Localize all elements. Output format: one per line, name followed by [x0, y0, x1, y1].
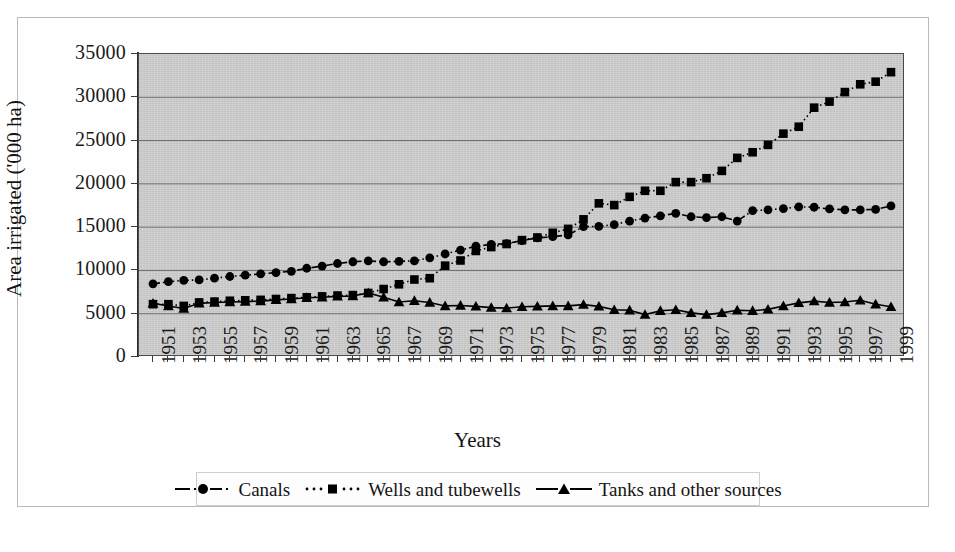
data-point-square	[841, 88, 850, 97]
data-point-square	[595, 199, 604, 208]
x-tick-mark	[767, 356, 768, 362]
x-tick-mark	[536, 356, 537, 362]
y-tick-mark	[131, 356, 138, 357]
x-tick-mark	[598, 356, 599, 362]
legend-label-wells-and-tubewells: Wells and tubewells	[368, 480, 521, 499]
data-point-circle	[241, 271, 250, 280]
data-point-circle	[210, 274, 219, 283]
x-tick-mark	[337, 356, 338, 362]
legend-swatch-circle-icon	[174, 481, 232, 497]
x-tick-mark	[844, 356, 845, 362]
y-tick-label: 0	[116, 345, 126, 365]
data-point-square	[625, 193, 634, 202]
scan-page-edge	[0, 533, 955, 552]
y-tick-label: 25000	[75, 129, 126, 149]
x-tick-mark	[429, 356, 430, 362]
x-tick-mark	[352, 356, 353, 362]
legend-item-canals[interactable]: Canals	[167, 480, 297, 499]
data-point-square	[748, 148, 757, 157]
x-tick-mark	[444, 356, 445, 362]
x-tick-mark	[629, 356, 630, 362]
data-point-square	[887, 68, 896, 77]
x-tick-label: 1963	[344, 326, 363, 364]
legend-label-canals: Canals	[238, 480, 290, 499]
data-point-square	[518, 236, 527, 245]
x-tick-mark	[859, 356, 860, 362]
x-tick-label: 1953	[190, 326, 209, 364]
x-tick-label: 1995	[836, 326, 855, 364]
plot-area	[138, 53, 904, 356]
series-canals	[149, 202, 896, 289]
data-point-circle	[425, 253, 434, 262]
x-tick-mark	[583, 356, 584, 362]
x-tick-mark	[736, 356, 737, 362]
y-tick-label: 10000	[75, 258, 126, 278]
y-tick-mark	[131, 140, 138, 141]
x-tick-label: 1969	[436, 326, 455, 364]
data-point-circle	[195, 276, 204, 285]
data-point-square	[641, 186, 650, 195]
data-point-circle	[825, 205, 834, 214]
data-point-square	[441, 261, 450, 270]
data-point-square	[472, 247, 481, 256]
y-axis-title: Area irrigated ('000 ha)	[2, 0, 27, 409]
x-tick-mark	[829, 356, 830, 362]
x-tick-label: 1951	[159, 326, 178, 364]
data-point-square	[687, 178, 696, 187]
legend-swatch-square-icon	[304, 481, 362, 497]
data-point-square	[487, 243, 496, 252]
x-tick-label: 1993	[805, 326, 824, 364]
data-point-square	[533, 233, 542, 242]
y-tick-label: 30000	[75, 85, 126, 105]
x-tick-mark	[875, 356, 876, 362]
x-tick-mark	[475, 356, 476, 362]
x-tick-mark	[460, 356, 461, 362]
x-tick-mark	[721, 356, 722, 362]
data-point-triangle	[855, 295, 866, 305]
x-tick-mark	[152, 356, 153, 362]
data-point-square	[671, 178, 680, 187]
data-point-circle	[395, 257, 404, 266]
data-point-square	[456, 256, 465, 265]
legend-item-wells-and-tubewells[interactable]: Wells and tubewells	[297, 480, 528, 499]
data-point-circle	[810, 203, 819, 212]
x-tick-label: 1985	[682, 326, 701, 364]
data-point-square	[856, 80, 865, 89]
x-tick-mark	[690, 356, 691, 362]
data-point-square	[764, 141, 773, 150]
data-point-triangle	[809, 296, 820, 306]
data-point-circle	[456, 246, 465, 255]
data-point-triangle	[578, 299, 589, 309]
legend-item-tanks-and-other-sources[interactable]: Tanks and other sources	[528, 480, 789, 499]
data-point-square	[733, 154, 742, 163]
x-tick-mark	[644, 356, 645, 362]
data-point-circle	[333, 259, 342, 268]
y-tick-label: 35000	[75, 42, 126, 62]
x-tick-mark	[813, 356, 814, 362]
data-point-circle	[702, 213, 711, 222]
data-point-circle	[856, 205, 865, 214]
x-tick-mark	[214, 356, 215, 362]
plot-region	[138, 53, 904, 356]
x-tick-mark	[506, 356, 507, 362]
x-tick-label: 1991	[774, 326, 793, 364]
data-point-circle	[272, 268, 281, 277]
data-point-circle	[610, 220, 619, 229]
x-tick-label: 1961	[313, 326, 332, 364]
x-tick-mark	[367, 356, 368, 362]
y-tick-label: 15000	[75, 215, 126, 235]
x-tick-label: 1983	[651, 326, 670, 364]
data-point-circle	[225, 272, 234, 281]
x-axis-title: Years	[0, 428, 955, 453]
x-tick-mark	[613, 356, 614, 362]
data-point-square	[425, 274, 434, 283]
x-tick-label: 1959	[282, 326, 301, 364]
data-point-circle	[149, 279, 158, 288]
chart-legend: Canals Wells and tubewells Tanks and oth…	[196, 472, 760, 506]
x-tick-mark	[552, 356, 553, 362]
data-point-square	[718, 167, 727, 176]
data-point-square	[410, 275, 419, 284]
data-point-circle	[410, 257, 419, 266]
y-tick-mark	[131, 269, 138, 270]
data-point-triangle	[409, 295, 420, 305]
